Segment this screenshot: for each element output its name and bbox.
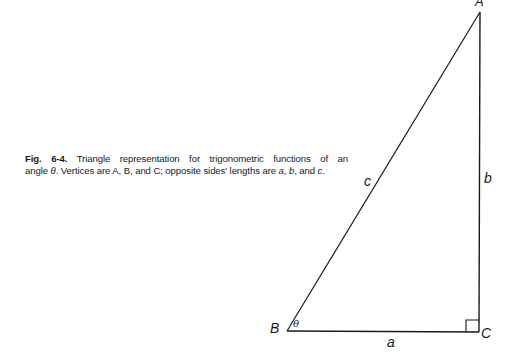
side-label-a: a <box>387 335 395 349</box>
side-a-base <box>287 331 479 332</box>
vertex-label-a: A <box>475 0 484 9</box>
side-b-vertical <box>479 12 480 332</box>
right-angle-marker <box>466 320 479 332</box>
triangle-diagram <box>0 0 514 361</box>
vertex-label-c: C <box>481 326 491 340</box>
vertex-label-b: B <box>270 321 279 335</box>
figure-6-4: Fig. 6-4. Triangle representation for tr… <box>0 0 514 361</box>
side-label-b: b <box>484 171 492 185</box>
side-label-c: c <box>364 174 371 188</box>
side-c-hypotenuse <box>287 12 480 331</box>
angle-theta-label: θ <box>293 319 299 329</box>
